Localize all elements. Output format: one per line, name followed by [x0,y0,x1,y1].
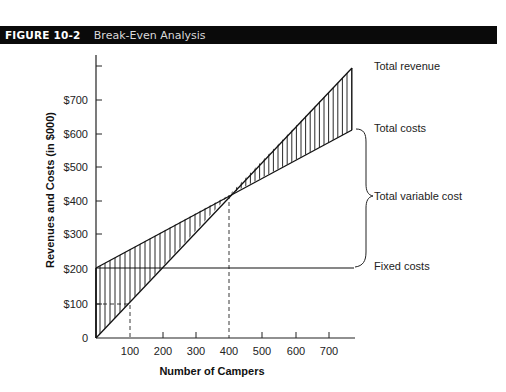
label-total-revenue: Total revenue [374,60,440,72]
break-even-chart: 0 $100 $200 $300 $400 $500 $600 $700 100… [0,0,506,392]
profit-area-hatching [232,60,352,200]
x-tick-300: 300 [187,345,205,357]
y-tick-300: $300 [64,228,88,240]
x-tick-400: 400 [220,345,238,357]
x-tick-500: 500 [253,345,271,357]
label-fixed-costs: Fixed costs [374,260,430,272]
y-axis-title: Revenues and Costs (in $000) [44,112,56,268]
x-axis-title: Number of Campers [159,365,264,377]
x-tick-700: 700 [320,345,338,357]
y-tick-700: $700 [64,94,88,106]
y-tick-400: $400 [64,195,88,207]
x-tick-600: 600 [287,345,305,357]
variable-cost-brace [355,129,373,267]
x-axis-ticks [163,332,329,338]
y-tick-100: $100 [64,298,88,310]
x-tick-200: 200 [154,345,172,357]
total-costs-line [96,130,352,268]
y-tick-200: $200 [64,263,88,275]
label-total-costs: Total costs [374,122,426,134]
y-tick-labels: 0 $100 $200 $300 $400 $500 $600 $700 [64,94,88,344]
y-tick-500: $500 [64,161,88,173]
loss-area-hatching [100,190,225,340]
total-revenue-line [96,68,352,338]
y-tick-600: $600 [64,128,88,140]
x-tick-100: 100 [121,345,139,357]
x-tick-labels: 100 200 300 400 500 600 700 [121,345,338,357]
label-total-variable-cost: Total variable cost [374,190,462,202]
y-tick-0: 0 [82,332,88,344]
